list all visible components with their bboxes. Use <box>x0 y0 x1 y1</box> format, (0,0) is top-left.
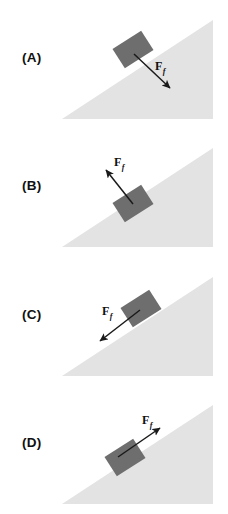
force-label-d: Ff <box>142 413 154 430</box>
answer-choice-panel-d[interactable]: (D) Ff <box>0 385 228 513</box>
diagram-a: Ff <box>0 0 228 128</box>
diagram-d: Ff <box>0 385 228 514</box>
answer-choice-panel-b[interactable]: (B) Ff <box>0 128 228 256</box>
diagram-c: Ff <box>0 257 228 385</box>
answer-choice-panel-a[interactable]: (A) Ff <box>0 0 228 128</box>
force-label-c: Ff <box>102 304 114 321</box>
block-a <box>112 31 153 69</box>
diagram-b: Ff <box>0 128 228 256</box>
incline-surface-c <box>62 277 213 376</box>
answer-choice-panel-c[interactable]: (C) Ff <box>0 257 228 385</box>
force-label-b: Ff <box>114 155 126 172</box>
